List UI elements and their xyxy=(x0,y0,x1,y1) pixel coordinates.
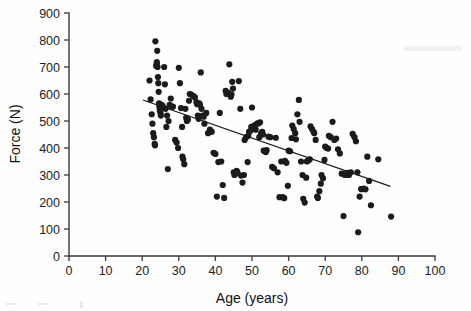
scatter-point xyxy=(149,121,155,127)
scatter-point xyxy=(283,160,289,166)
scatter-point xyxy=(174,140,180,146)
scatter-point xyxy=(294,111,300,117)
scatter-point xyxy=(164,113,170,119)
scatter-point xyxy=(198,106,204,112)
x-axis-ticks: 0102030405060708090100 xyxy=(66,256,446,278)
scatter-point xyxy=(170,104,176,110)
y-tick-label: 800 xyxy=(39,34,60,48)
y-tick-label: 0 xyxy=(53,250,60,264)
page-edge-artifact-left xyxy=(6,303,15,305)
scatter-point xyxy=(146,77,152,83)
scatter-point xyxy=(236,78,242,84)
scatter-point xyxy=(253,127,259,133)
scatter-point xyxy=(316,188,322,194)
chart-figure: 0100200300400500600700800900 01020304050… xyxy=(0,0,471,311)
scatter-point xyxy=(154,64,160,70)
scatter-point xyxy=(275,169,281,175)
scatter-point xyxy=(302,199,308,205)
x-tick-label: 40 xyxy=(208,264,222,278)
x-tick-label: 60 xyxy=(282,264,296,278)
x-tick-label: 0 xyxy=(66,264,73,278)
scatter-point xyxy=(203,110,209,116)
scatter-point xyxy=(355,229,361,235)
scatter-point xyxy=(353,138,359,144)
x-tick-label: 50 xyxy=(245,264,259,278)
scatter-plot-canvas: 0100200300400500600700800900 01020304050… xyxy=(0,0,471,311)
scatter-point xyxy=(152,38,158,44)
scatter-point xyxy=(337,150,343,156)
scatter-point xyxy=(181,161,187,167)
scatter-point xyxy=(285,183,291,189)
scatter-point xyxy=(228,91,234,97)
scatter-point xyxy=(158,113,164,119)
scatter-point xyxy=(292,130,298,136)
scatter-point xyxy=(176,65,182,71)
x-tick-label: 20 xyxy=(135,264,149,278)
scatter-point xyxy=(185,117,191,123)
scatter-point xyxy=(175,145,181,151)
scatter-point xyxy=(281,195,287,201)
scatter-point xyxy=(293,136,299,142)
y-tick-label: 100 xyxy=(39,223,60,237)
scatter-point xyxy=(163,124,169,130)
x-tick-label: 90 xyxy=(391,264,405,278)
y-tick-label: 200 xyxy=(39,196,60,210)
scatter-point xyxy=(212,151,218,157)
y-tick-label: 600 xyxy=(39,88,60,102)
scatter-point xyxy=(260,131,266,137)
scatter-point xyxy=(245,159,251,165)
scatter-point xyxy=(162,81,168,87)
scatter-point xyxy=(226,61,232,67)
y-tick-label: 500 xyxy=(39,115,60,129)
scatter-point xyxy=(364,154,370,160)
scatter-point xyxy=(257,119,263,125)
y-axis-title: Force (N) xyxy=(7,104,23,163)
scatter-point xyxy=(214,194,220,200)
scatter-point xyxy=(155,74,161,80)
scatter-point xyxy=(154,48,160,54)
scatter-point xyxy=(264,147,270,153)
scatter-point xyxy=(325,145,331,151)
regression-trendline xyxy=(143,100,390,186)
scatter-point xyxy=(303,175,309,181)
scatter-point xyxy=(168,95,174,101)
scatter-point xyxy=(218,158,224,164)
y-tick-label: 900 xyxy=(39,7,60,21)
scatter-point xyxy=(237,106,243,112)
scatter-point xyxy=(165,118,171,124)
scatter-point xyxy=(165,166,171,172)
x-axis-title: Age (years) xyxy=(216,290,288,306)
scatter-point xyxy=(368,202,374,208)
scatter-point xyxy=(388,213,394,219)
page-edge-artifact-tick xyxy=(80,302,83,308)
scatter-point xyxy=(241,172,247,178)
scatter-point xyxy=(152,142,158,148)
scatter-point xyxy=(320,175,326,181)
scatter-point xyxy=(267,134,273,140)
scatter-point xyxy=(315,195,321,201)
scatter-point xyxy=(313,137,319,143)
scatter-point xyxy=(273,135,279,141)
scatter-point xyxy=(311,130,317,136)
scatter-point xyxy=(298,158,304,164)
scatter-point xyxy=(221,195,227,201)
scatter-point xyxy=(220,182,226,188)
page-edge-artifact-mid xyxy=(38,303,47,305)
scatter-point xyxy=(357,194,363,200)
scatter-point xyxy=(209,129,215,135)
scatter-point xyxy=(179,124,185,130)
scatter-point xyxy=(296,97,302,103)
scatter-point xyxy=(239,179,245,185)
scatter-point xyxy=(155,80,161,86)
scatter-point xyxy=(296,119,302,125)
scatter-point xyxy=(229,79,235,85)
y-tick-label: 300 xyxy=(39,169,60,183)
scatter-point xyxy=(362,186,368,192)
scatter-point xyxy=(151,134,157,140)
y-tick-label: 400 xyxy=(39,142,60,156)
scatter-point xyxy=(217,110,223,116)
scatter-point xyxy=(329,119,335,125)
scatter-point xyxy=(318,181,324,187)
x-tick-label: 30 xyxy=(172,264,186,278)
scatter-point xyxy=(340,213,346,219)
